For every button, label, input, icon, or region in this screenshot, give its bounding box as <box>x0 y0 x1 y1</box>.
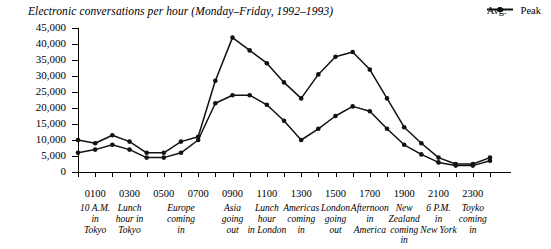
series-point <box>127 147 132 152</box>
series-point <box>488 155 493 160</box>
series-point <box>436 155 441 160</box>
x-axis-annotation-line: Europe <box>158 203 204 214</box>
y-axis-tick-label: 0 <box>4 166 66 177</box>
x-axis-annotation: Toykocomingin <box>450 203 496 235</box>
x-axis-tick <box>233 172 234 177</box>
x-axis-tick <box>490 172 491 177</box>
series-point <box>93 141 98 146</box>
series-point <box>179 139 184 144</box>
series-point <box>402 143 407 148</box>
x-axis-annotation-line: coming <box>450 214 496 225</box>
x-axis-tick <box>147 172 148 177</box>
series-point <box>419 141 424 146</box>
series-point <box>265 103 270 108</box>
series-point <box>282 80 287 85</box>
y-axis-tick-label: 15,000 <box>4 118 66 129</box>
x-axis-tick <box>95 172 96 177</box>
x-axis-tick <box>215 172 216 177</box>
x-axis-annotation-line: Toyko <box>450 203 496 214</box>
x-axis-annotation-line: in <box>450 225 496 236</box>
series-point <box>110 143 115 148</box>
chart-legend: Avg. Peak <box>487 5 541 16</box>
x-axis-tick <box>130 172 131 177</box>
x-axis-annotation-line: in <box>158 225 204 236</box>
x-axis-annotation-line: Lunch <box>107 203 153 214</box>
series-point <box>299 96 304 101</box>
y-axis-tick-label: 25,000 <box>4 86 66 97</box>
series-point <box>316 127 321 132</box>
x-axis-tick <box>336 172 337 177</box>
series-point <box>213 79 218 84</box>
series-point <box>162 151 167 156</box>
series-point <box>230 93 235 98</box>
x-axis-annotation-line: coming <box>158 214 204 225</box>
x-axis-line <box>78 172 511 173</box>
series-point <box>453 162 458 167</box>
series-point <box>144 155 149 160</box>
x-axis-annotation: Lunchhour inTokyo <box>107 203 153 235</box>
x-axis-tick <box>301 172 302 177</box>
series-point <box>368 109 373 114</box>
series-point <box>402 125 407 130</box>
series-point <box>282 119 287 124</box>
x-axis-annotation-line: Tokyo <box>107 225 153 236</box>
series-point <box>385 127 390 132</box>
y-axis-tick-label: 20,000 <box>4 102 66 113</box>
series-point <box>196 135 201 140</box>
series-point <box>76 138 81 143</box>
series-point <box>299 138 304 143</box>
series-point <box>265 61 270 66</box>
x-axis-tick <box>198 172 199 177</box>
series-point <box>316 72 321 77</box>
x-axis-tick <box>181 172 182 177</box>
x-axis-tick <box>473 172 474 177</box>
x-axis-tick <box>456 172 457 177</box>
series-point <box>179 151 184 156</box>
x-axis-tick-label: 2300 <box>453 188 493 199</box>
series-point <box>419 152 424 157</box>
x-axis-tick <box>284 172 285 177</box>
series-point <box>213 101 218 106</box>
series-point <box>333 55 338 60</box>
x-axis-tick <box>421 172 422 177</box>
series-point <box>110 133 115 138</box>
x-axis-tick <box>267 172 268 177</box>
chart-title: Electronic conversations per hour (Monda… <box>28 5 333 17</box>
x-axis-tick <box>387 172 388 177</box>
series-line-peak <box>78 38 490 164</box>
y-axis-tick-label: 30,000 <box>4 70 66 81</box>
x-axis-annotation: Europecomingin <box>158 203 204 235</box>
x-axis-tick <box>318 172 319 177</box>
y-axis-tick-label: 45,000 <box>4 22 66 33</box>
series-point <box>368 67 373 72</box>
x-axis-tick <box>164 172 165 177</box>
series-point <box>93 147 98 152</box>
x-axis-tick <box>404 172 405 177</box>
x-axis-tick <box>353 172 354 177</box>
series-line-avg <box>78 95 490 165</box>
y-axis-tick-label: 40,000 <box>4 38 66 49</box>
series-point <box>230 35 235 40</box>
series-point <box>333 114 338 119</box>
series-point <box>436 160 441 165</box>
chart-figure: Electronic conversations per hour (Monda… <box>0 0 551 249</box>
plot-area <box>78 28 490 172</box>
series-point <box>247 93 252 98</box>
x-axis-annotation-line: in <box>381 235 427 246</box>
series-point <box>350 50 355 55</box>
series-point <box>76 151 81 156</box>
series-point <box>127 139 132 144</box>
legend-marker-peak <box>487 5 513 14</box>
series-point <box>471 162 476 167</box>
y-axis-tick-label: 35,000 <box>4 54 66 65</box>
x-axis-tick <box>78 172 79 177</box>
x-axis-tick <box>112 172 113 177</box>
series-point <box>247 48 252 53</box>
y-axis-tick-label: 10,000 <box>4 134 66 145</box>
x-axis-annotation-line: hour in <box>107 214 153 225</box>
series-point <box>162 155 167 160</box>
series-point <box>385 96 390 101</box>
legend-label-peak: Peak <box>521 5 541 16</box>
series-point <box>350 104 355 109</box>
x-axis-tick <box>370 172 371 177</box>
